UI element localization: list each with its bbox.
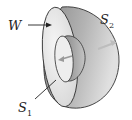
label-s1-base: S	[18, 100, 27, 115]
label-s1: S1	[18, 101, 32, 118]
label-w: W	[8, 19, 21, 32]
label-s2-base: S	[100, 12, 109, 27]
label-s1-sub: 1	[27, 109, 32, 118]
label-s2: S2	[100, 13, 114, 30]
label-s2-sub: 2	[109, 21, 114, 30]
